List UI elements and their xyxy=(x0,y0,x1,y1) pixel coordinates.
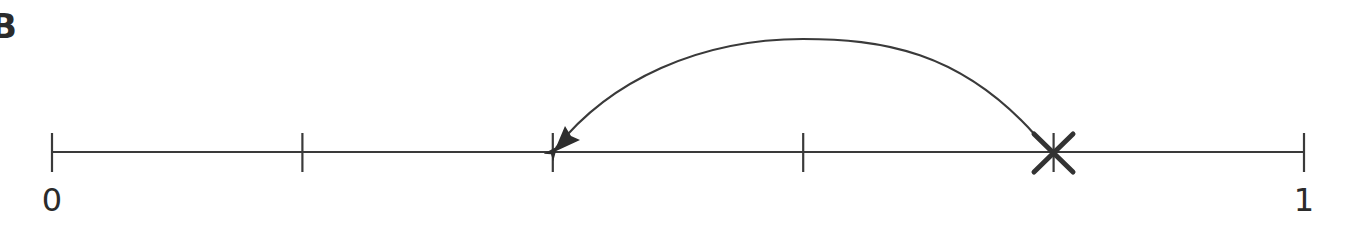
number-line-diagram xyxy=(0,0,1349,232)
jump-arrow xyxy=(556,39,1036,148)
label-zero: 0 xyxy=(42,181,62,219)
label-one: 1 xyxy=(1294,181,1314,219)
arrowhead-icon xyxy=(554,126,580,152)
